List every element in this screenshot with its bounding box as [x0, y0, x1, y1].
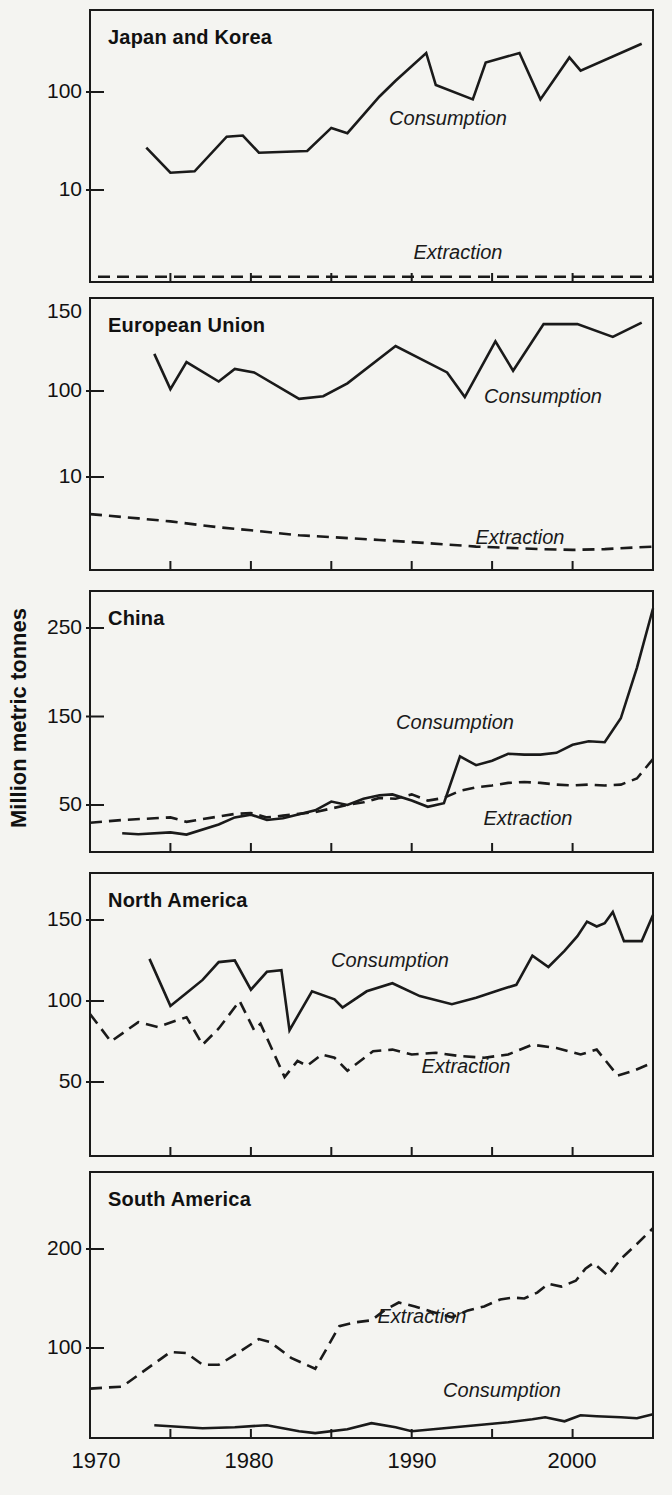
y-tick-label: 10 [0, 177, 82, 201]
y-tick-label: 10 [0, 464, 82, 488]
consumption-label-china: Consumption [396, 711, 514, 734]
y-tick-label: 100 [0, 378, 82, 402]
extraction-line [90, 514, 653, 550]
consumption-label-european-union: Consumption [484, 385, 602, 408]
x-axis-label-1970: 1970 [72, 1448, 121, 1474]
figure-canvas: Million metric tonnes Japan and Korea Eu… [0, 0, 672, 1495]
y-tick-label: 50 [0, 1069, 82, 1093]
consumption-label-north-america: Consumption [331, 949, 449, 972]
consumption-line [122, 609, 653, 835]
panel-title-japan-korea: Japan and Korea [108, 26, 272, 49]
extraction-label-china: Extraction [484, 807, 573, 830]
y-tick-label: 250 [0, 615, 82, 639]
y-tick-label: 100 [0, 988, 82, 1012]
extraction-line [90, 1001, 653, 1077]
extraction-label-european-union: Extraction [476, 526, 565, 549]
x-axis-label-1980: 1980 [225, 1448, 274, 1474]
extraction-label-japan-korea: Extraction [414, 241, 503, 264]
y-tick-label: 100 [0, 79, 82, 103]
panel-title-south-america: South America [108, 1188, 251, 1211]
chart-svg [0, 0, 672, 1495]
y-tick-label: 150 [0, 299, 82, 323]
extraction-label-south-america: Extraction [378, 1305, 467, 1328]
consumption-line [154, 1414, 653, 1433]
panel-border [90, 10, 653, 282]
panel-title-china: China [108, 607, 165, 630]
y-tick-label: 50 [0, 792, 82, 816]
x-axis-label-1990: 1990 [388, 1448, 437, 1474]
panel-title-north-america: North America [108, 889, 248, 912]
panel-border [90, 873, 653, 1156]
y-tick-label: 150 [0, 907, 82, 931]
y-tick-label: 100 [0, 1335, 82, 1359]
y-tick-label: 150 [0, 704, 82, 728]
x-axis-label-2000: 2000 [548, 1448, 597, 1474]
extraction-label-north-america: Extraction [422, 1055, 511, 1078]
panel-title-european-union: European Union [108, 314, 265, 337]
extraction-line [90, 1228, 653, 1388]
panel-border [90, 298, 653, 570]
y-tick-label: 200 [0, 1236, 82, 1260]
consumption-label-japan-korea: Consumption [389, 107, 507, 130]
panel-border [90, 1172, 653, 1438]
consumption-label-south-america: Consumption [443, 1379, 561, 1402]
